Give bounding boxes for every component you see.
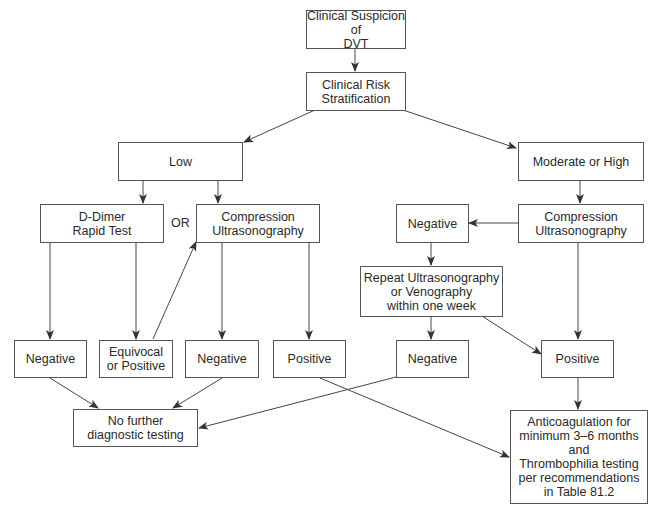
node-compression-us-right: Compression Ultrasonography: [518, 204, 644, 243]
edge-negative-nofurther-1: [50, 378, 98, 408]
edge-negative-nofurther-2: [173, 378, 222, 408]
node-negative-right-top: Negative: [396, 204, 469, 243]
node-anticoagulation: Anticoagulation for minimum 3–6 months a…: [510, 410, 648, 504]
node-d-dimer: D-Dimer Rapid Test: [40, 204, 164, 243]
node-repeat-ultrasonography: Repeat Ultrasonography or Venography wit…: [360, 266, 503, 317]
node-clinical-suspicion: Clinical Suspicion of DVT: [306, 10, 406, 49]
node-negative-ddimer: Negative: [14, 340, 87, 378]
edge-negative-repeat-nofurther: [199, 377, 396, 428]
node-low-risk: Low: [118, 142, 243, 181]
node-compression-us-left: Compression Ultrasonography: [196, 204, 320, 243]
node-positive-right: Positive: [541, 340, 614, 378]
node-negative-cus-left: Negative: [185, 340, 259, 378]
or-label: OR: [171, 216, 190, 230]
edge-risk-low: [244, 110, 315, 142]
node-negative-repeat: Negative: [396, 340, 469, 378]
node-clinical-risk-stratification: Clinical Risk Stratification: [306, 72, 406, 111]
node-equivocal-positive: Equivocal or Positive: [99, 340, 173, 378]
node-moderate-high-risk: Moderate or High: [518, 142, 644, 181]
edge-positive-anticoag: [320, 378, 509, 457]
dvt-flowchart: Clinical Suspicion of DVT Clinical Risk …: [0, 0, 662, 518]
node-no-further-testing: No further diagnostic testing: [73, 409, 198, 447]
edge-repeat-positive: [482, 316, 541, 354]
edge-equivocal-cus-left: [153, 242, 196, 339]
node-positive-cus-left: Positive: [273, 340, 346, 378]
edge-risk-modhigh: [403, 110, 516, 148]
